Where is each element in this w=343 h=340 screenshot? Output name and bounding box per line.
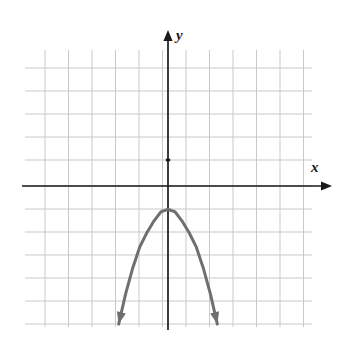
y-axis-label: y <box>176 28 183 43</box>
y-axis-arrowhead <box>163 30 172 41</box>
grid-vertical-lines <box>45 50 304 327</box>
coordinate-plane <box>0 0 343 340</box>
x-axis-arrowhead <box>321 181 332 190</box>
y-axis <box>163 30 172 330</box>
x-axis-label: x <box>311 160 319 175</box>
graph-figure: y x <box>0 0 343 340</box>
